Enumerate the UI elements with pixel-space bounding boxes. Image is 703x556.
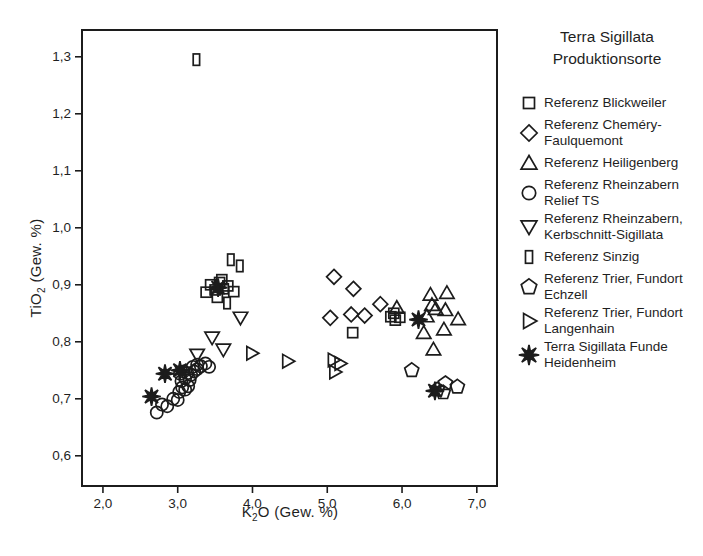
x-tick-label: 7,0 [467, 496, 486, 511]
pentagon-legend-glyph [516, 274, 542, 300]
diamond-legend-glyph [516, 120, 542, 146]
star8-data-marker [156, 365, 174, 383]
legend: Terra Sigillata Produktionsorte Referenz… [514, 26, 700, 374]
legend-item-trier-langenhain: Referenz Trier, Fundort Langenhain [514, 306, 700, 336]
square-legend-glyph [516, 90, 542, 116]
star8-legend-glyph [516, 342, 542, 368]
y-axis-title: TiO2 (Gew. %) [27, 219, 47, 318]
diamond-data-marker [327, 269, 342, 284]
triangle-right-data-marker [524, 314, 537, 329]
diamond-data-marker [373, 297, 388, 312]
triangle-down-data-marker [205, 332, 219, 344]
x-tick-label: 2,0 [94, 496, 113, 511]
triangle-down-marker-icon [514, 214, 544, 240]
pentagon-data-marker [521, 279, 536, 294]
pentagon-data-marker [405, 363, 419, 376]
figure-page: 2,03,04,05,06,07,00,60,70,80,91,01,11,21… [0, 0, 703, 556]
triangle-right-legend-glyph [516, 308, 542, 334]
star-marker-icon [514, 342, 544, 368]
diamond-data-marker [323, 310, 338, 325]
y-axis-title-units: (Gew. %) [27, 219, 44, 288]
x-axis-title-units: O (Gew. %) [258, 503, 339, 520]
star8-data-marker [209, 278, 227, 296]
y-tick-label: 1,1 [52, 163, 71, 178]
triangle-down-data-marker [233, 312, 247, 324]
y-axis-title-subscript: 2 [36, 287, 47, 293]
square-data-marker [524, 98, 535, 109]
vrect-legend-glyph [516, 244, 542, 270]
legend-item-blickweiler: Referenz Blickweiler [514, 92, 700, 114]
y-tick-label: 1,0 [52, 220, 71, 235]
triangle-right-data-marker [247, 346, 259, 360]
triangle-up-legend-glyph [516, 150, 542, 176]
circle-data-marker [203, 361, 215, 373]
triangle-right-data-marker [283, 354, 295, 368]
legend-item-label: Referenz Heiligenberg [544, 155, 700, 171]
vrect-data-marker [224, 297, 230, 308]
legend-item-chemery-faulquemont: Referenz Cheméry-Faulquemont [514, 118, 700, 148]
triangle-up-marker-icon [514, 150, 544, 176]
legend-item-label: Referenz Trier, Fundort Langenhain [544, 305, 700, 337]
triangle-up-data-marker [440, 286, 454, 298]
y-axis-title-text: TiO [27, 293, 44, 318]
legend-item-label: Referenz Blickweiler [544, 95, 700, 111]
star8-data-marker [426, 382, 444, 400]
legend-title-line2: Produktionsorte [514, 48, 700, 70]
diamond-marker-icon [514, 120, 544, 146]
square-marker-icon [514, 90, 544, 116]
triangle-up-data-marker [451, 312, 465, 324]
x-tick-label: 3,0 [168, 496, 187, 511]
legend-item-label: Terra Sigillata Funde Heidenheim [544, 339, 700, 371]
y-tick-label: 1,2 [52, 106, 71, 121]
y-tick-label: 0,8 [52, 334, 71, 349]
triangle-down-data-marker [521, 221, 537, 235]
circle-marker-icon [514, 180, 544, 206]
legend-title-line1: Terra Sigillata [514, 26, 700, 48]
y-tick-label: 0,6 [52, 448, 71, 463]
x-axis-title-text: K [242, 503, 252, 520]
triangle-up-data-marker [423, 288, 437, 300]
x-tick-label: 6,0 [393, 496, 412, 511]
diamond-data-marker [521, 125, 537, 141]
legend-item-label: Referenz Rheinzabern, Kerbschnitt-Sigill… [544, 211, 700, 243]
triangle-right-marker-icon [514, 308, 544, 334]
circle-legend-glyph [516, 180, 542, 206]
legend-item-label: Referenz Trier, Fundort Echzell [544, 271, 700, 303]
triangle-up-data-marker [521, 155, 537, 169]
circle-data-marker [522, 186, 535, 199]
legend-item-rheinzabern-kerbschnitt: Referenz Rheinzabern, Kerbschnitt-Sigill… [514, 212, 700, 242]
legend-title: Terra Sigillata Produktionsorte [514, 26, 700, 70]
plot-frame [82, 30, 497, 486]
legend-item-rheinzabern-relief: Referenz Rheinzabern Relief TS [514, 178, 700, 208]
star8-data-marker [142, 387, 160, 405]
star8-data-marker [171, 361, 189, 379]
diamond-data-marker [344, 307, 359, 322]
star8-data-marker [409, 310, 427, 328]
legend-item-trier-echzell: Referenz Trier, Fundort Echzell [514, 272, 700, 302]
vrect-data-marker [228, 254, 234, 265]
square-data-marker [348, 328, 358, 338]
star8-data-marker [519, 345, 539, 365]
pentagon-marker-icon [514, 274, 544, 300]
legend-item-heidenheim: Terra Sigillata Funde Heidenheim [514, 340, 700, 370]
legend-item-label: Referenz Sinzig [544, 249, 700, 265]
diamond-data-marker [346, 281, 361, 296]
legend-item-heiligenberg: Referenz Heiligenberg [514, 152, 700, 174]
diamond-data-marker [357, 308, 372, 323]
vrect-data-marker [525, 251, 532, 264]
triangle-up-data-marker [437, 322, 451, 334]
series-triangle-right [247, 346, 347, 378]
triangle-up-data-marker [426, 342, 440, 354]
y-tick-label: 0,9 [52, 277, 71, 292]
series-triangle-down [190, 312, 248, 362]
legend-item-label: Referenz Rheinzabern Relief TS [544, 177, 700, 209]
series-vrect [193, 54, 243, 309]
triangle-down-legend-glyph [516, 214, 542, 240]
legend-item-label: Referenz Cheméry-Faulquemont [544, 117, 700, 149]
y-tick-label: 0,7 [52, 391, 71, 406]
vrect-data-marker [237, 260, 243, 271]
triangle-down-data-marker [216, 344, 230, 356]
y-tick-label: 1,3 [52, 49, 71, 64]
legend-item-sinzig: Referenz Sinzig [514, 246, 700, 268]
x-axis-title: K2O (Gew. %) [242, 503, 339, 523]
